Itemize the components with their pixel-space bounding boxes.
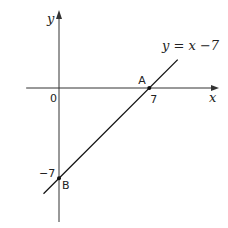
origin-label: 0 (50, 92, 57, 105)
point-label-a: A (138, 74, 146, 87)
y-axis-arrow (56, 10, 62, 19)
point-b (57, 176, 61, 180)
y-axis-label: y (46, 11, 55, 26)
series-line (44, 60, 178, 194)
series (44, 60, 178, 194)
point-label-b: B (62, 179, 70, 192)
x-axis-label: x (209, 90, 217, 105)
labels: y x 0 y = x −7 (46, 11, 220, 105)
point-a (147, 86, 151, 90)
equation-label: y = x −7 (161, 38, 220, 53)
tick-label: 7 (150, 93, 157, 106)
chart: A7B−7 y x 0 y = x −7 (0, 0, 228, 228)
tick-label: −7 (39, 167, 55, 180)
